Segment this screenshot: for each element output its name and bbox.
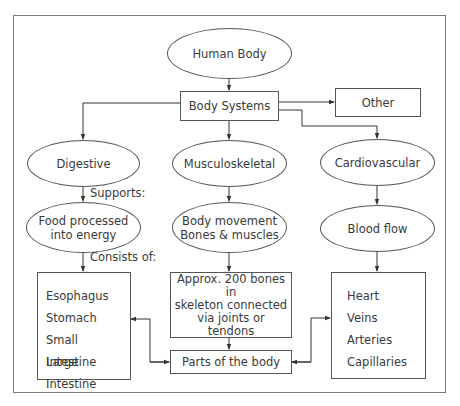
cardiovascular-parts-list: Heart Veins Arteries Capillaries [331, 272, 426, 379]
edge-label-supports: Supports: [90, 186, 145, 200]
node-digestive-label: Digestive [56, 157, 110, 171]
node-parts-of-body-label: Parts of the body [182, 355, 280, 369]
list-item: Heart [347, 285, 425, 307]
edge-label-consists-of: Consists of: [90, 250, 156, 264]
node-body-systems: Body Systems [180, 91, 279, 121]
node-musculoskeletal: Musculoskeletal [172, 140, 287, 187]
node-blood-flow-label: Blood flow [348, 222, 408, 236]
digestive-parts-list: Esophagus Stomach Small Intestine Large … [37, 272, 131, 380]
skeleton-note-line-4: tendons [208, 325, 255, 338]
node-human-body-label: Human Body [192, 47, 266, 61]
node-other-label: Other [362, 96, 395, 110]
node-other: Other [335, 88, 421, 117]
list-item: Capillaries [347, 351, 425, 373]
list-item: Esophagus [46, 285, 130, 307]
node-musculoskeletal-label: Musculoskeletal [184, 157, 275, 171]
node-parts-of-body: Parts of the body [170, 350, 292, 374]
node-digestive: Digestive [27, 140, 140, 187]
list-item: Arteries [347, 329, 425, 351]
node-blood-flow: Blood flow [320, 205, 435, 252]
skeleton-note-line-3: via joints or [197, 312, 264, 325]
list-item: Stomach [46, 307, 130, 329]
list-item: Small Intestine [46, 329, 130, 351]
node-body-systems-label: Body Systems [189, 99, 271, 113]
node-cardiovascular-label: Cardiovascular [335, 156, 421, 170]
node-body-movement-line-1: Body movement [182, 214, 277, 228]
node-food-processed-line-2: into energy [51, 228, 117, 242]
node-body-movement-line-2: Bones & muscles [180, 228, 279, 242]
node-cardiovascular: Cardiovascular [320, 139, 435, 186]
node-human-body: Human Body [167, 28, 292, 79]
list-item: Veins [347, 307, 425, 329]
skeleton-note-line-2: skeleton connected [175, 299, 287, 312]
node-food-processed: Food processed into energy [26, 202, 141, 253]
skeleton-note-line-1: Approx. 200 bones in [171, 273, 291, 299]
node-food-processed-line-1: Food processed [39, 214, 129, 228]
node-skeleton-note: Approx. 200 bones in skeleton connected … [170, 272, 292, 338]
node-body-movement: Body movement Bones & muscles [172, 202, 287, 253]
